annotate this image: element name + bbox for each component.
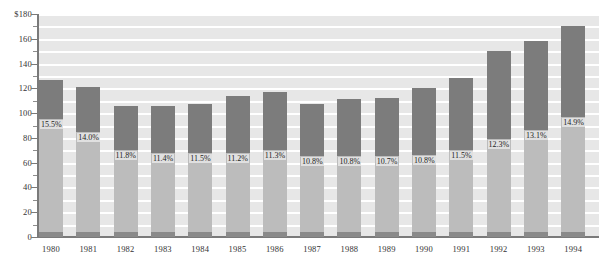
x-axis-tick-label: 1994 (553, 244, 593, 254)
bar-segment-lower[interactable] (487, 139, 511, 237)
bar-base-shadow (39, 232, 63, 237)
bar-segment-lower[interactable] (151, 153, 175, 237)
bar-base-shadow (263, 232, 287, 237)
bar-base-shadow (487, 232, 511, 237)
y-axis-tick-label: 40 (0, 182, 32, 192)
x-axis-tick-label: 1988 (329, 244, 369, 254)
bar-base-shadow (300, 232, 324, 237)
x-axis-tick-label: 1986 (255, 244, 295, 254)
table-row[interactable] (114, 106, 138, 237)
table-row[interactable] (375, 98, 399, 237)
bar-data-label: 11.5% (189, 154, 211, 163)
y-axis-tick-label: 20 (0, 207, 32, 217)
x-axis-tick-label: 1990 (404, 244, 444, 254)
x-axis-tick-label: 1980 (31, 244, 71, 254)
bar-segment-upper[interactable] (487, 51, 511, 139)
bar-base-shadow (375, 232, 399, 237)
bar-segment-lower[interactable] (263, 150, 287, 237)
x-axis-tick-label: 1982 (106, 244, 146, 254)
bar-segment-upper[interactable] (337, 99, 361, 156)
table-row[interactable] (188, 104, 212, 237)
y-axis-tick-label: 120 (0, 83, 32, 93)
table-row[interactable] (300, 104, 324, 237)
y-axis-tick-label: 160 (0, 34, 32, 44)
bar-segment-upper[interactable] (524, 41, 548, 130)
bar-segment-upper[interactable] (561, 26, 585, 116)
table-row[interactable] (561, 26, 585, 237)
bar-base-shadow (76, 232, 100, 237)
bar-base-shadow (151, 232, 175, 237)
bar-base-shadow (188, 232, 212, 237)
bar-data-label: 15.5% (40, 120, 63, 129)
bar-data-label: 13.1% (525, 131, 548, 140)
y-axis-tick-label: 0 (0, 232, 32, 242)
bar-segment-lower[interactable] (226, 153, 250, 237)
bar-segment-lower[interactable] (412, 155, 436, 237)
table-row[interactable] (76, 87, 100, 237)
y-axis-tick-label: 140 (0, 59, 32, 69)
bar-data-label: 10.8% (338, 157, 361, 166)
table-row[interactable] (151, 106, 175, 237)
bar-base-shadow (449, 232, 473, 237)
bar-base-shadow (337, 232, 361, 237)
bar-segment-upper[interactable] (449, 78, 473, 150)
bar-segment-lower[interactable] (114, 150, 138, 237)
bar-base-shadow (412, 232, 436, 237)
bar-segment-lower[interactable] (300, 156, 324, 237)
x-axis-tick-label: 1993 (516, 244, 556, 254)
x-axis-tick-label: 1985 (218, 244, 258, 254)
table-row[interactable] (39, 80, 63, 237)
x-axis-tick-label: 1984 (180, 244, 220, 254)
bar-segment-lower[interactable] (39, 119, 63, 237)
bar-segment-upper[interactable] (76, 87, 100, 132)
bar-segment-lower[interactable] (449, 150, 473, 237)
bar-data-label: 11.3% (264, 151, 286, 160)
bar-data-label: 14.9% (562, 118, 585, 127)
bar-data-label: 11.2% (227, 154, 249, 163)
x-axis-tick-label: 1987 (292, 244, 332, 254)
bar-data-label: 10.8% (301, 157, 324, 166)
bar-base-shadow (226, 232, 250, 237)
x-axis-tick-label: 1981 (68, 244, 108, 254)
bar-segment-lower[interactable] (524, 130, 548, 237)
bar-data-label: 10.7% (376, 157, 399, 166)
bar-base-shadow (524, 232, 548, 237)
bar-segment-lower[interactable] (337, 156, 361, 237)
y-axis-tick-label: 80 (0, 133, 32, 143)
bar-base-shadow (114, 232, 138, 237)
bar-segment-upper[interactable] (412, 88, 436, 155)
x-axis-tick-label: 1989 (367, 244, 407, 254)
y-axis-tick-label: 100 (0, 108, 32, 118)
chart-figure: $180160140120100806040200 15.5%14.0%11.8… (0, 0, 612, 269)
bar-segment-upper[interactable] (39, 80, 63, 120)
table-row[interactable] (226, 96, 250, 237)
bar-data-label: 11.5% (450, 151, 472, 160)
y-axis-tick-label: $180 (0, 9, 32, 19)
x-axis-tick-label: 1992 (479, 244, 519, 254)
bar-segment-lower[interactable] (188, 153, 212, 237)
bar-segment-lower[interactable] (375, 156, 399, 237)
bar-data-label: 12.3% (488, 140, 511, 149)
x-axis-tick-label: 1991 (441, 244, 481, 254)
bar-segment-upper[interactable] (114, 106, 138, 151)
table-row[interactable] (337, 99, 361, 237)
bar-segment-upper[interactable] (263, 92, 287, 150)
bar-segment-upper[interactable] (226, 96, 250, 153)
bar-segment-upper[interactable] (188, 104, 212, 152)
bar-segment-lower[interactable] (561, 117, 585, 237)
bar-segment-upper[interactable] (375, 98, 399, 156)
y-axis-tick-label: 60 (0, 158, 32, 168)
bar-segment-upper[interactable] (300, 104, 324, 156)
bar-data-label: 11.8% (115, 151, 137, 160)
bar-data-label: 10.8% (413, 156, 436, 165)
bar-data-label: 11.4% (152, 154, 174, 163)
bar-segment-lower[interactable] (76, 132, 100, 237)
table-row[interactable] (263, 92, 287, 237)
bar-segment-upper[interactable] (151, 106, 175, 153)
x-axis-tick-label: 1983 (143, 244, 183, 254)
bar-data-label: 14.0% (77, 133, 100, 142)
bar-base-shadow (561, 232, 585, 237)
